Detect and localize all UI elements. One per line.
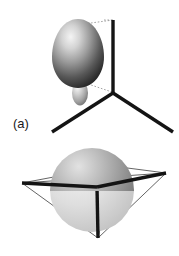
panel-b-graphic (0, 136, 179, 256)
three-bond-axis-frame (97, 187, 98, 238)
panel-a-label: (a) (13, 117, 29, 130)
axis-lower-right (113, 93, 173, 132)
figure-root: (a) (0, 0, 179, 256)
panel-a: (a) (0, 0, 179, 136)
major-lobe (52, 19, 104, 88)
axis-down (97, 187, 98, 238)
panel-b: (b) (0, 136, 179, 256)
